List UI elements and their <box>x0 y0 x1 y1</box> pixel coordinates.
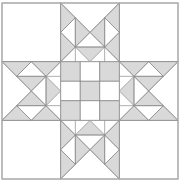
nine-patch-cell-white <box>80 62 100 82</box>
nine-patch-cell-grey <box>61 101 81 121</box>
top-arm <box>61 3 120 62</box>
center-nine-patch <box>61 62 120 121</box>
corner-bottom-right <box>119 120 178 179</box>
nine-patch-cell-white <box>100 81 120 101</box>
bottom-arm <box>61 120 120 179</box>
corner-top-left <box>2 3 61 62</box>
nine-patch-cell-grey <box>80 81 100 101</box>
quilt-block-diagram <box>0 0 184 186</box>
nine-patch-cell-grey <box>100 62 120 82</box>
nine-patch-cell-white <box>80 101 100 121</box>
left-arm <box>2 62 61 121</box>
nine-patch-cell-grey <box>61 62 81 82</box>
corner-top-right <box>119 3 178 62</box>
nine-patch-cell-white <box>61 81 81 101</box>
corner-bottom-left <box>2 120 61 179</box>
right-arm <box>119 62 178 121</box>
nine-patch-cell-grey <box>100 101 120 121</box>
